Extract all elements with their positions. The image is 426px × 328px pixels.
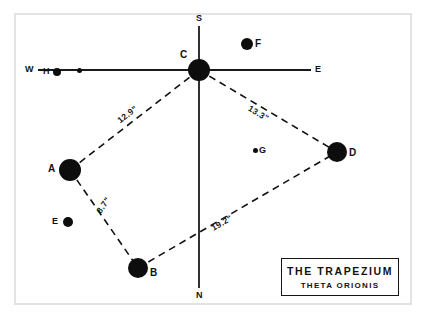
star-g (253, 148, 258, 153)
star-e (63, 217, 73, 227)
star-label-e: E (52, 217, 58, 226)
separation-line-b-d (138, 152, 337, 268)
star-label-h: H (43, 67, 50, 76)
compass-label-east: E (315, 65, 321, 74)
compass-label-west: W (25, 65, 34, 74)
star-b (128, 258, 148, 278)
star-h (53, 68, 61, 76)
star-label-a: A (48, 164, 56, 174)
separation-line-c-d (199, 70, 337, 152)
star-label-f: F (255, 39, 261, 49)
star-unlabeled-1 (77, 68, 82, 73)
star-label-d: D (349, 148, 357, 158)
compass-label-north: N (196, 291, 203, 300)
star-c (188, 59, 210, 81)
star-label-g: G (259, 146, 266, 155)
star-label-c: C (180, 50, 188, 60)
trapezium-figure: S N W E C A B D F E G H 12.9" 13.3" 8.7"… (0, 0, 426, 328)
title-box: THE TRAPEZIUM THETA ORIONIS (281, 258, 399, 296)
star-f (241, 38, 253, 50)
star-d (327, 142, 347, 162)
separation-line-c-a (70, 70, 199, 170)
compass-label-south: S (196, 14, 202, 23)
star-label-b: B (150, 268, 158, 278)
title-secondary: THETA ORIONIS (301, 281, 380, 290)
star-a (59, 159, 81, 181)
separation-line-a-b (70, 170, 138, 268)
title-primary: THE TRAPEZIUM (287, 265, 393, 277)
